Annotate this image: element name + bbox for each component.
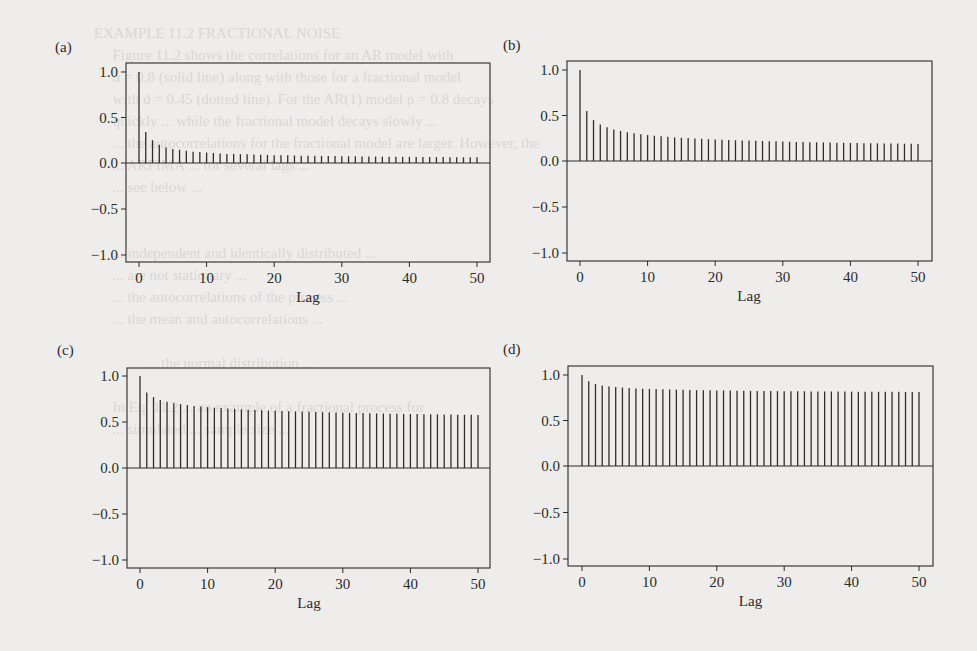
y-tick-label: 0.0	[99, 155, 118, 171]
panel-label: (d)	[503, 341, 521, 358]
y-tick-label: −0.5	[532, 199, 559, 215]
x-tick-label: 10	[642, 574, 657, 590]
panel-label: (a)	[55, 39, 72, 56]
x-tick-label: 10	[200, 576, 215, 592]
y-tick-label: −0.5	[91, 201, 118, 217]
x-tick-label: 0	[136, 576, 144, 592]
acf-panel-a: (a)1.00.50.0−0.5−1.001020304050Lag	[55, 39, 490, 305]
y-tick-label: 0.0	[100, 460, 119, 476]
y-tick-label: 0.0	[541, 458, 560, 474]
x-tick-label: 30	[335, 576, 350, 592]
x-tick-label: 40	[844, 574, 859, 590]
acf-figure: (a)1.00.50.0−0.5−1.001020304050Lag(b)1.0…	[0, 0, 977, 651]
y-tick-label: 1.0	[100, 368, 119, 384]
y-tick-label: −1.0	[92, 552, 119, 568]
y-tick-label: 1.0	[540, 62, 559, 78]
panel-label: (b)	[503, 37, 521, 54]
y-tick-label: −1.0	[532, 245, 559, 261]
y-tick-label: 0.5	[99, 110, 118, 126]
x-tick-label: 40	[402, 270, 417, 286]
x-axis-label: Lag	[297, 595, 321, 611]
x-tick-label: 0	[576, 269, 584, 285]
y-tick-label: −0.5	[92, 506, 119, 522]
y-tick-label: −1.0	[533, 551, 560, 567]
y-tick-label: −0.5	[533, 505, 560, 521]
y-tick-label: 0.5	[541, 413, 560, 429]
x-axis-label: Lag	[739, 593, 763, 609]
x-tick-label: 50	[912, 574, 927, 590]
y-tick-label: 1.0	[541, 367, 560, 383]
y-tick-label: 0.0	[540, 153, 559, 169]
x-tick-label: 0	[135, 270, 143, 286]
x-axis-label: Lag	[737, 288, 761, 304]
x-tick-label: 20	[708, 269, 723, 285]
x-tick-label: 40	[843, 269, 858, 285]
acf-panel-c: (c)1.00.50.0−0.5−1.001020304050Lag	[57, 342, 490, 611]
y-tick-label: −1.0	[91, 247, 118, 263]
x-tick-label: 30	[777, 574, 792, 590]
x-tick-label: 50	[471, 576, 486, 592]
x-tick-label: 30	[334, 270, 349, 286]
acf-panel-d: (d)1.00.50.0−0.5−1.001020304050Lag	[503, 341, 933, 609]
x-tick-label: 10	[640, 269, 655, 285]
x-tick-label: 20	[268, 576, 283, 592]
x-tick-label: 0	[578, 574, 586, 590]
x-tick-label: 40	[403, 576, 418, 592]
x-tick-label: 30	[775, 269, 790, 285]
panel-label: (c)	[57, 342, 74, 359]
y-tick-label: 0.5	[540, 108, 559, 124]
x-axis-label: Lag	[296, 289, 320, 305]
y-tick-label: 1.0	[99, 64, 118, 80]
x-tick-label: 20	[709, 574, 724, 590]
acf-panel-b: (b)1.00.50.0−0.5−1.001020304050Lag	[503, 37, 932, 304]
x-tick-label: 20	[267, 270, 282, 286]
y-tick-label: 0.5	[100, 414, 119, 430]
x-tick-label: 50	[911, 269, 926, 285]
x-tick-label: 50	[470, 270, 485, 286]
x-tick-label: 10	[199, 270, 214, 286]
